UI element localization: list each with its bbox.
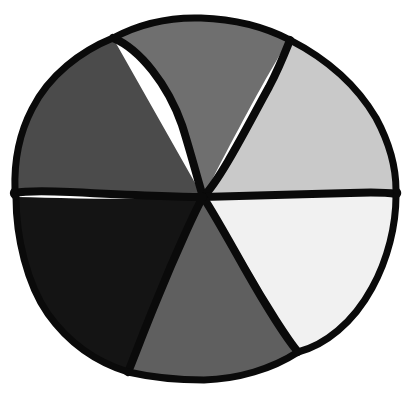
pie-chart bbox=[0, 0, 412, 394]
rim-notch-right bbox=[396, 190, 398, 196]
chart-canvas bbox=[0, 0, 412, 394]
rim-notch-left bbox=[13, 190, 16, 197]
divider-right-horizontal bbox=[203, 193, 396, 197]
